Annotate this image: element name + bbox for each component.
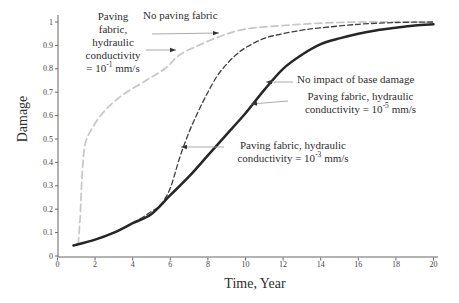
- y-tick-label: 0.7: [43, 88, 53, 97]
- annotation-line: = 10-1 mm/s: [63, 62, 163, 75]
- x-tick-label: 16: [354, 260, 362, 269]
- annotation-line: Paving fabric, hydraulic: [288, 90, 433, 103]
- y-tick-label: 0.9: [43, 41, 53, 50]
- y-tick-label: 0.5: [43, 135, 53, 144]
- annotation-line: conductivity: [63, 49, 163, 62]
- annotation-line: fabric,: [63, 23, 163, 36]
- annotation-line: conductivity = 10-5 mm/s: [288, 103, 433, 116]
- y-tick-label: 0.6: [43, 111, 53, 120]
- x-tick-label: 10: [242, 260, 250, 269]
- x-tick-label: 14: [317, 260, 325, 269]
- annotation-line: hydraulic: [63, 36, 163, 49]
- x-tick-label: 6: [168, 260, 172, 269]
- y-tick-label: 0.8: [43, 64, 53, 73]
- x-tick-label: 12: [279, 260, 287, 269]
- annotation-paving-fabric-10-5: Paving fabric, hydraulicconductivity = 1…: [288, 90, 433, 116]
- x-tick-label: 0: [56, 260, 60, 269]
- annotation-no-impact-of-base-damage: No impact of base damage: [297, 73, 414, 86]
- x-axis-title: Time, Year: [195, 276, 315, 294]
- annotation-paving-fabric-10-3: Paving fabric, hydraulicconductivity = 1…: [222, 139, 364, 165]
- y-tick-label: 0.2: [43, 205, 53, 214]
- y-axis-title: Damage: [15, 59, 31, 179]
- damage-vs-time-chart: 0246810121416182000.10.20.30.40.50.60.70…: [0, 0, 459, 303]
- x-tick-label: 8: [206, 260, 210, 269]
- y-tick-label: 0.3: [43, 181, 53, 190]
- y-tick-label: 0: [49, 252, 53, 261]
- y-tick-label: 0.1: [43, 228, 53, 237]
- annotation-arrow-head: [170, 48, 176, 52]
- y-tick-label: 0.4: [43, 158, 53, 167]
- annotation-no-paving-fabric: No paving fabric: [143, 9, 218, 22]
- y-tick-label: 1: [49, 18, 53, 27]
- x-tick-label: 2: [93, 260, 97, 269]
- annotation-line: conductivity = 10-3 mm/s: [222, 152, 364, 165]
- x-tick-label: 4: [131, 260, 135, 269]
- annotation-line: No impact of base damage: [297, 73, 414, 86]
- annotation-line: Paving fabric, hydraulic: [222, 139, 364, 152]
- x-tick-label: 18: [392, 260, 400, 269]
- x-tick-label: 20: [430, 260, 438, 269]
- annotation-arrow-head: [213, 31, 219, 35]
- annotation-line: No paving fabric: [143, 9, 218, 22]
